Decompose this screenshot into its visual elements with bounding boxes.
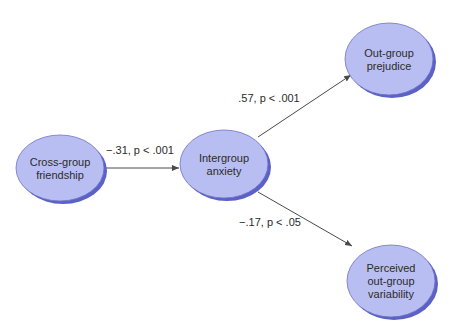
nodes-layer: Cross-groupfriendshipIntergroupanxietyOu…	[16, 23, 438, 320]
node-anxiety: Intergroupanxiety	[180, 130, 271, 201]
path-diagram: Cross-groupfriendshipIntergroupanxietyOu…	[0, 0, 453, 322]
node-label: Perceived	[367, 262, 416, 274]
path-coefficient-label: .57, p < .001	[238, 92, 299, 104]
node-label: out-group	[367, 275, 414, 287]
path-coefficient-label: −.17, p < .05	[239, 216, 301, 228]
node-label: Intergroup	[199, 152, 249, 164]
path-coefficient-label: −.31, p < .001	[106, 144, 174, 156]
node-label: Out-group	[364, 47, 414, 59]
node-prejudice: Out-groupprejudice	[345, 23, 436, 98]
node-friendship: Cross-groupfriendship	[16, 135, 107, 204]
node-label: Cross-group	[30, 156, 91, 168]
node-label: variability	[368, 288, 414, 300]
node-label: prejudice	[367, 60, 412, 72]
node-variability: Perceivedout-groupvariability	[347, 245, 438, 320]
path-arrow-anxiety-to-prejudice	[258, 75, 351, 137]
node-label: anxiety	[207, 165, 242, 177]
node-label: friendship	[36, 169, 84, 181]
